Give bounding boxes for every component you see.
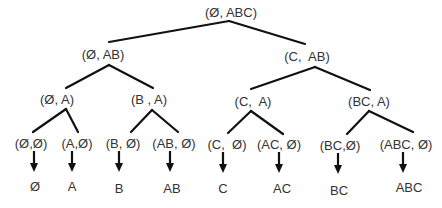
node-l2-4: (BC, A): [348, 95, 390, 108]
edge-l2d-right: [369, 111, 413, 132]
node-l3-3: (B, Ø): [106, 137, 141, 150]
arrow-down-icon: [68, 151, 76, 172]
edge-l2c-right: [251, 111, 283, 134]
arrow-down-icon: [115, 151, 123, 172]
node-l3-2: (A,Ø): [61, 137, 92, 150]
node-l1-left: (Ø, AB): [82, 48, 125, 61]
result-7: BC: [330, 184, 348, 197]
node-l3-7: (BC,Ø): [320, 139, 360, 152]
arrow-down-icon: [334, 153, 342, 174]
node-l1-right: (C, AB): [284, 50, 330, 63]
edge-l2b-right: [152, 110, 178, 132]
arrow-down-icon: [30, 151, 38, 172]
edge-l1a-left: [66, 65, 109, 88]
edge-l2d-left: [347, 111, 369, 134]
edge-l1b-left: [251, 67, 315, 89]
node-l3-1: (Ø,Ø): [15, 137, 48, 150]
node-root: (Ø, ABC): [205, 6, 257, 19]
edge-l2b-left: [131, 110, 152, 132]
result-3: B: [115, 182, 124, 195]
node-l2-1: (Ø, A): [40, 93, 74, 106]
node-l2-3: (C, A): [235, 95, 272, 108]
arrow-down-icon: [399, 152, 407, 173]
result-4: AB: [163, 182, 180, 195]
result-8: ABC: [396, 181, 423, 194]
result-5: C: [218, 182, 227, 195]
result-2: A: [68, 180, 77, 193]
node-l3-5: (C, Ø): [208, 138, 247, 151]
edge-l2a-right: [66, 109, 78, 132]
edge-l2a-left: [33, 109, 66, 132]
edge-root-left: [109, 21, 229, 42]
node-l3-8: (ABC, Ø): [380, 138, 433, 151]
node-l2-2: (B , A): [131, 93, 167, 106]
edge-l2c-left: [228, 111, 251, 133]
edge-l1a-right: [109, 65, 153, 88]
result-6: AC: [273, 182, 291, 195]
result-1: Ø: [30, 180, 40, 193]
arrow-down-icon: [275, 152, 283, 173]
edge-l1b-right: [315, 67, 370, 90]
node-l3-4: (AB, Ø): [152, 137, 195, 150]
subset-generation-tree: (Ø, ABC) (Ø, AB) (C, AB) (Ø, A) (B , A) …: [0, 0, 442, 208]
node-l3-6: (AC, Ø): [257, 138, 301, 151]
arrow-down-icon: [166, 151, 174, 172]
arrow-down-icon: [219, 152, 227, 173]
edge-root-right: [229, 21, 305, 44]
